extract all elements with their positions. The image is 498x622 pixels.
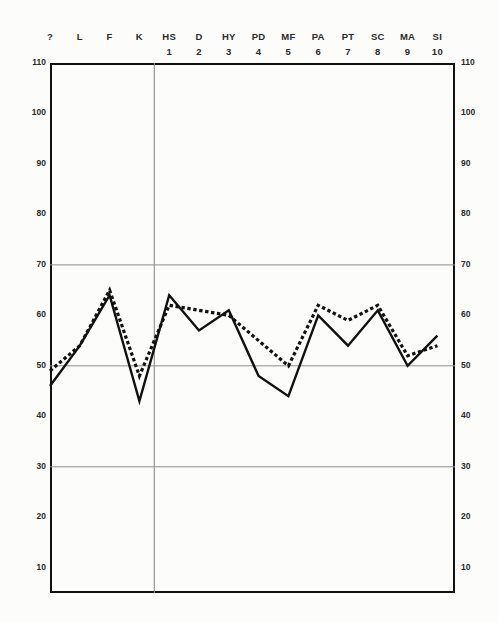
- y-axis-tick-right-20: 20: [461, 512, 470, 521]
- y-axis-tick-left-90: 90: [37, 159, 46, 168]
- y-axis-tick-right-110: 110: [461, 58, 475, 67]
- y-axis-tick-right-40: 40: [461, 411, 470, 420]
- column-header-label: D: [195, 31, 202, 42]
- y-axis-tick-right-90: 90: [461, 159, 470, 168]
- column-header-label: F: [107, 31, 113, 42]
- y-axis-tick-right-10: 10: [461, 563, 470, 572]
- y-axis-tick-left-70: 70: [37, 260, 46, 269]
- y-axis-tick-left-100: 100: [32, 108, 46, 117]
- y-axis-tick-right-100: 100: [461, 108, 475, 117]
- mmpi-profile-chart: ?LFKHS1D2HY3PD4MF5PA6PT7SC8MA9SI10 11010…: [0, 0, 498, 622]
- column-header-label: HY: [222, 31, 236, 42]
- y-axis-tick-left-40: 40: [37, 411, 46, 420]
- column-header-si: SI10: [417, 31, 457, 57]
- y-axis-tick-right-30: 30: [461, 462, 470, 471]
- y-axis-tick-left-80: 80: [37, 209, 46, 218]
- y-axis-tick-left-60: 60: [37, 310, 46, 319]
- y-axis-tick-left-50: 50: [37, 361, 46, 370]
- y-axis-tick-right-60: 60: [461, 310, 470, 319]
- column-header-label: MA: [400, 31, 415, 42]
- column-header-label: ?: [47, 31, 53, 42]
- y-axis-tick-right-50: 50: [461, 361, 470, 370]
- column-header-label: PA: [312, 31, 325, 42]
- y-axis-tick-left-110: 110: [32, 58, 46, 67]
- column-header-label: HS: [162, 31, 176, 42]
- y-axis-tick-left-10: 10: [37, 563, 46, 572]
- column-header-label: SI: [433, 31, 443, 42]
- y-axis-tick-left-30: 30: [37, 462, 46, 471]
- column-header-label: MF: [281, 31, 295, 42]
- y-axis-tick-right-70: 70: [461, 260, 470, 269]
- column-header-number: 10: [417, 46, 457, 57]
- y-axis-tick-left-20: 20: [37, 512, 46, 521]
- column-header-label: PT: [342, 31, 355, 42]
- plot-frame: [50, 63, 455, 593]
- column-header-label: PD: [252, 31, 266, 42]
- column-header-label: L: [77, 31, 83, 42]
- column-header-label: K: [136, 31, 143, 42]
- column-header-label: SC: [371, 31, 385, 42]
- y-axis-tick-right-80: 80: [461, 209, 470, 218]
